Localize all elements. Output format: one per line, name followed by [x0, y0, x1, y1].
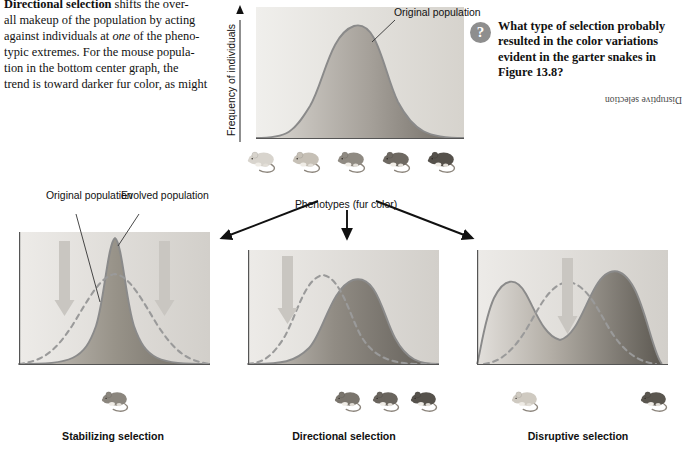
- stabilizing-original-label-text: Original population: [46, 190, 133, 201]
- mouse-icon: [639, 386, 672, 412]
- disruptive-mice-row: [510, 386, 672, 412]
- y-axis-arrow: [236, 5, 244, 142]
- question-text: What type of selection probably resulted…: [498, 19, 682, 81]
- body-line: trend is toward darker fur color, as mig…: [4, 76, 226, 92]
- body-run: shifts the over-: [111, 0, 188, 11]
- body-run: all makeup of the population by acting: [4, 13, 195, 27]
- body-run: tion in the bottom center graph, the: [4, 61, 178, 75]
- top-graph-mice-row: [246, 146, 460, 173]
- disruptive-caption: Disruptive selection: [490, 430, 666, 442]
- body-run: one: [112, 29, 130, 43]
- mouse-icon: [100, 386, 133, 412]
- mouse-icon: [409, 386, 442, 412]
- body-line: all makeup of the population by acting: [4, 12, 226, 28]
- mouse-icon: [371, 386, 404, 412]
- body-line: Directional selection shifts the over-: [4, 0, 226, 12]
- arrow-to-disruptive: [376, 201, 472, 238]
- panel-stabilizing-selection: [14, 214, 212, 384]
- body-paragraph: Directional selection shifts the over-al…: [4, 0, 226, 93]
- body-line: tion in the bottom center graph, the: [4, 60, 226, 76]
- stabilizing-evolved-label: Evolved population: [121, 190, 209, 202]
- body-run: against individuals at: [4, 29, 112, 43]
- top-graph-original-population: Frequency of individuals Original popula…: [232, 2, 468, 152]
- body-run: trend is toward darker fur color, as mig…: [4, 77, 207, 91]
- body-run: of the pheno-: [130, 29, 199, 43]
- answer-text: Disruptive selection: [605, 95, 682, 106]
- directional-plot: [243, 244, 441, 384]
- mouse-icon: [291, 146, 325, 173]
- mouse-icon: [510, 386, 543, 412]
- mouse-icon: [333, 386, 366, 412]
- body-line: typic extremes. For the mouse popula-: [4, 44, 226, 60]
- stabilizing-mice-row: [100, 386, 133, 412]
- body-run: Directional selection: [4, 0, 111, 11]
- disruptive-plot: [472, 244, 670, 384]
- top-graph-plot: [232, 2, 468, 152]
- stabilizing-caption: Stabilizing selection: [25, 430, 201, 442]
- arrow-to-stabilizing: [222, 201, 318, 238]
- body-line: against individuals at one of the pheno-: [4, 28, 226, 44]
- mouse-icon: [381, 146, 415, 173]
- original-population-label: Original population: [394, 7, 481, 19]
- stabilizing-original-label: Original population: [46, 190, 133, 202]
- body-run: typic extremes. For the mouse popula-: [4, 45, 195, 59]
- directional-caption: Directional selection: [256, 430, 432, 442]
- mouse-icon: [246, 146, 280, 173]
- question-mark-icon: ?: [470, 22, 491, 43]
- answer-upside-down: Disruptive selection: [532, 90, 682, 108]
- panel-disruptive-selection: [472, 244, 670, 384]
- stabilizing-evolved-label-text: Evolved population: [121, 190, 209, 201]
- mouse-icon: [336, 146, 370, 173]
- mouse-icon: [426, 146, 460, 173]
- stabilizing-plot: [14, 214, 212, 384]
- y-axis-label: Frequency of individuals: [226, 24, 237, 136]
- original-population-label-text: Original population: [394, 7, 481, 18]
- panel-directional-selection: [243, 244, 441, 384]
- directional-mice-row: [333, 386, 442, 412]
